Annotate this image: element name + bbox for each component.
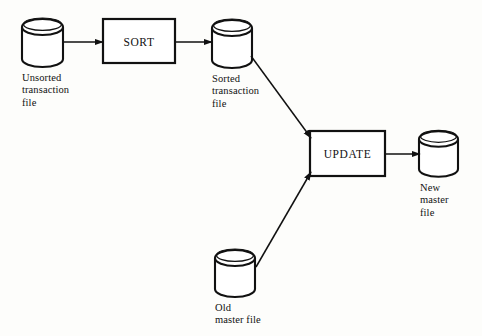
- node-update-process: UPDATE: [310, 131, 385, 176]
- node-unsorted-transaction-file: [22, 18, 63, 67]
- flowchart-canvas: SORT UPDATE: [0, 0, 482, 336]
- label-sorted-transaction-file: Sorted transaction file: [212, 73, 259, 110]
- node-sort-process: SORT: [103, 19, 175, 63]
- flowchart-diagram: SORT UPDATE: [0, 0, 482, 336]
- node-sorted-transaction-file: [212, 19, 252, 68]
- update-process-label: UPDATE: [324, 148, 372, 160]
- edge-oldmaster-to-update: [256, 172, 311, 267]
- node-new-master-file: [419, 130, 458, 177]
- node-old-master-file: [215, 249, 255, 297]
- label-new-master-file: New master file: [420, 182, 449, 219]
- label-unsorted-transaction-file: Unsorted transaction file: [22, 72, 69, 109]
- edge-sorted-to-update: [251, 56, 311, 138]
- label-old-master-file: Old master file: [215, 302, 261, 327]
- sort-process-label: SORT: [123, 36, 154, 48]
